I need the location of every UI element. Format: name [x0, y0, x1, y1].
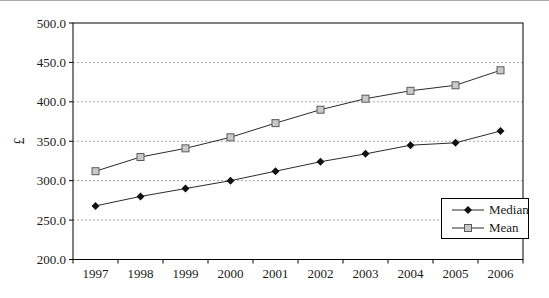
x-tick-label-1997: 1997 [83, 266, 110, 281]
marker-diamond-2003 [362, 150, 370, 158]
square-icon [465, 224, 472, 231]
marker-square-2000 [227, 134, 234, 141]
marker-square-1998 [137, 154, 144, 161]
line-chart-svg: 200.0250.0300.0350.0400.0450.0500.019971… [0, 1, 549, 298]
x-tick-label-2000: 2000 [218, 266, 244, 281]
earnings-line-chart: 200.0250.0300.0350.0400.0450.0500.019971… [0, 0, 549, 298]
legend-item-median: Median [450, 201, 528, 218]
marker-diamond-1998 [137, 192, 145, 200]
y-tick-label-400: 400.0 [37, 94, 66, 109]
x-tick-label-2003: 2003 [353, 266, 379, 281]
marker-square-2005 [452, 82, 459, 89]
x-tick-label-1998: 1998 [128, 266, 154, 281]
marker-diamond-2001 [272, 167, 280, 175]
x-tick-label-1999: 1999 [173, 266, 199, 281]
y-tick-label-500: 500.0 [37, 16, 66, 31]
y-tick-label-450: 450.0 [37, 55, 66, 70]
x-tick-label-2002: 2002 [308, 266, 334, 281]
marker-square-2002 [317, 106, 324, 113]
median-swatch-icon [450, 204, 486, 216]
marker-square-2006 [497, 67, 504, 74]
legend-label-median: Median [489, 203, 529, 216]
marker-square-1997 [92, 168, 99, 175]
marker-square-1999 [182, 145, 189, 152]
marker-diamond-2005 [452, 139, 460, 147]
y-axis-title: £ [12, 138, 28, 145]
marker-diamond-2002 [317, 158, 325, 166]
y-tick-label-350: 350.0 [37, 134, 66, 149]
series-line-median [96, 131, 501, 206]
mean-swatch-icon [450, 222, 486, 234]
legend-label-mean: Mean [489, 221, 519, 234]
marker-diamond-1997 [92, 202, 100, 210]
series-line-mean [96, 70, 501, 171]
marker-square-2004 [407, 87, 414, 94]
marker-diamond-1999 [182, 185, 190, 193]
legend-item-mean: Mean [450, 219, 528, 236]
y-tick-label-200: 200.0 [37, 252, 66, 267]
x-tick-label-2004: 2004 [398, 266, 425, 281]
x-tick-label-2005: 2005 [443, 266, 469, 281]
marker-diamond-2006 [497, 127, 505, 135]
marker-square-2001 [272, 120, 279, 127]
marker-diamond-2004 [407, 141, 415, 149]
y-tick-label-250: 250.0 [37, 213, 66, 228]
marker-square-2003 [362, 95, 369, 102]
marker-diamond-2000 [227, 177, 235, 185]
x-tick-label-2001: 2001 [263, 266, 289, 281]
legend: Median Mean [441, 198, 529, 239]
diamond-icon [464, 206, 472, 214]
y-tick-label-300: 300.0 [37, 173, 66, 188]
x-tick-label-2006: 2006 [488, 266, 515, 281]
